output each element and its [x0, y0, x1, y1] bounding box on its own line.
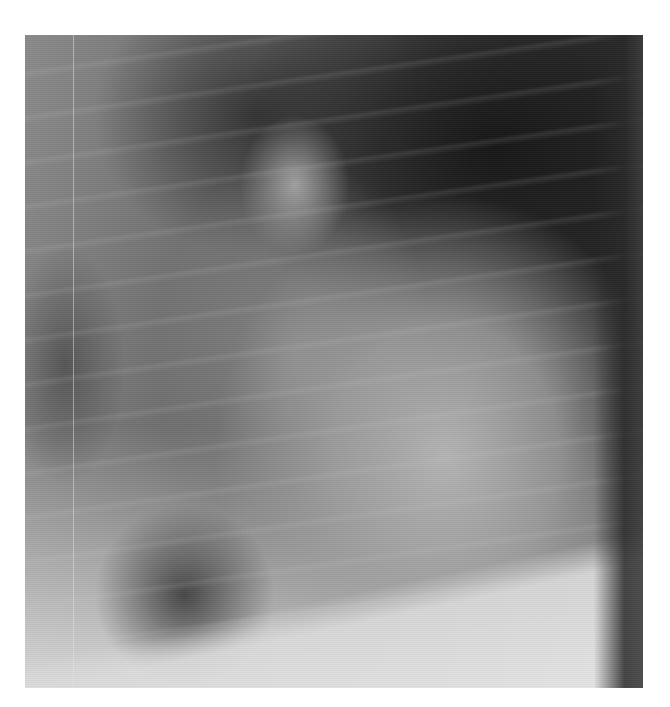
film-grain — [25, 35, 643, 688]
xray-image — [25, 35, 643, 688]
